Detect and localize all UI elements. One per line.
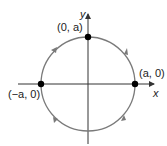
y-axis-label: y — [79, 8, 87, 20]
label-top: (0, a) — [57, 21, 83, 33]
point-left — [38, 81, 44, 87]
label-right: (a, 0) — [139, 67, 165, 79]
x-axis-label: x — [152, 87, 159, 99]
label-left: (−a, 0) — [8, 88, 40, 100]
point-right — [132, 81, 138, 87]
point-top — [85, 34, 91, 40]
direction-arrows — [51, 47, 128, 123]
circle-diagram: (0, a) (a, 0) (−a, 0) x y — [0, 0, 167, 146]
